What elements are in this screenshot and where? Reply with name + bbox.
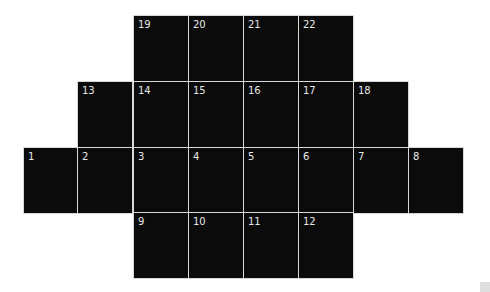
cell-label: 3 xyxy=(138,151,144,163)
cell-label: 7 xyxy=(358,151,364,163)
grid-cell-13: 13 xyxy=(77,81,133,148)
grid-cell-11: 11 xyxy=(243,212,299,279)
grid-cell-18: 18 xyxy=(353,81,409,148)
cell-label: 21 xyxy=(248,19,261,31)
grid-cell-20: 20 xyxy=(188,15,244,82)
grid-cell-16: 16 xyxy=(243,81,299,148)
cell-label: 12 xyxy=(303,216,316,228)
grid-cell-15: 15 xyxy=(188,81,244,148)
cell-label: 16 xyxy=(248,85,261,97)
grid-cell-9: 9 xyxy=(133,212,189,279)
grid-cell-19: 19 xyxy=(133,15,189,82)
cell-label: 1 xyxy=(28,151,34,163)
cell-label: 10 xyxy=(193,216,206,228)
grid-cell-3: 3 xyxy=(133,147,189,214)
cell-label: 4 xyxy=(193,151,199,163)
cell-label: 5 xyxy=(248,151,254,163)
cell-label: 8 xyxy=(413,151,419,163)
grid-cell-21: 21 xyxy=(243,15,299,82)
numbered-grid-diagram: 19 20 21 22 13 14 15 16 17 18 1 2 3 4 5 … xyxy=(0,0,490,292)
cell-label: 6 xyxy=(303,151,309,163)
grid-cell-14: 14 xyxy=(133,81,189,148)
cell-label: 15 xyxy=(193,85,206,97)
grid-cell-2: 2 xyxy=(77,147,133,214)
grid-cell-5: 5 xyxy=(243,147,299,214)
grid-cell-10: 10 xyxy=(188,212,244,279)
cell-label: 14 xyxy=(138,85,151,97)
cell-label: 9 xyxy=(138,216,144,228)
cell-label: 19 xyxy=(138,19,151,31)
cell-label: 2 xyxy=(82,151,88,163)
cell-label: 22 xyxy=(303,19,316,31)
cell-label: 17 xyxy=(303,85,316,97)
cell-label: 11 xyxy=(248,216,261,228)
grid-cell-1: 1 xyxy=(23,147,79,214)
grid-cell-6: 6 xyxy=(298,147,354,214)
grid-cell-8: 8 xyxy=(408,147,464,214)
cell-label: 13 xyxy=(82,85,95,97)
cell-label: 20 xyxy=(193,19,206,31)
grid-cell-12: 12 xyxy=(298,212,354,279)
grid-cell-4: 4 xyxy=(188,147,244,214)
grid-cell-22: 22 xyxy=(298,15,354,82)
corner-resize-grip xyxy=(480,282,490,292)
cell-label: 18 xyxy=(358,85,371,97)
grid-cell-7: 7 xyxy=(353,147,409,214)
grid-cell-17: 17 xyxy=(298,81,354,148)
